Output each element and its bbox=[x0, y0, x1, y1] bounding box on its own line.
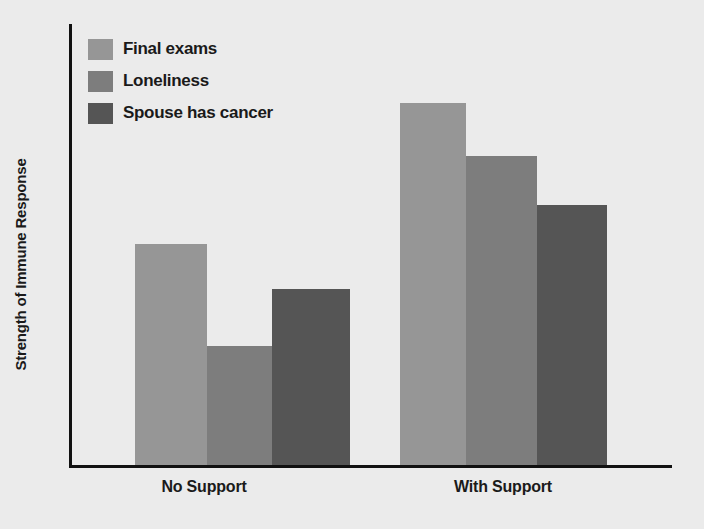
legend-label-final-exams: Final exams bbox=[123, 39, 217, 59]
x-tick-label-no-support: No Support bbox=[129, 478, 279, 496]
bar-with-support-spouse-has-cancer bbox=[537, 205, 607, 465]
chart-legend: Final exams Loneliness Spouse has cancer bbox=[88, 33, 273, 129]
bar-no-support-loneliness bbox=[207, 346, 278, 465]
legend-swatch-icon-final-exams bbox=[88, 39, 113, 60]
legend-label-loneliness: Loneliness bbox=[123, 71, 209, 91]
bar-with-support-loneliness bbox=[466, 156, 537, 465]
legend-item-spouse-has-cancer: Spouse has cancer bbox=[88, 97, 273, 129]
bar-no-support-final-exams bbox=[135, 244, 207, 465]
legend-label-spouse-has-cancer: Spouse has cancer bbox=[123, 103, 273, 123]
bar-chart-figure: Strength of Immune Response No Support W… bbox=[0, 0, 704, 529]
legend-item-loneliness: Loneliness bbox=[88, 65, 273, 97]
legend-swatch-icon-spouse-has-cancer bbox=[88, 103, 113, 124]
bar-with-support-final-exams bbox=[400, 103, 466, 465]
bar-no-support-spouse-has-cancer bbox=[272, 289, 350, 465]
legend-swatch-icon-loneliness bbox=[88, 71, 113, 92]
x-tick-label-with-support: With Support bbox=[428, 478, 578, 496]
legend-item-final-exams: Final exams bbox=[88, 33, 273, 65]
